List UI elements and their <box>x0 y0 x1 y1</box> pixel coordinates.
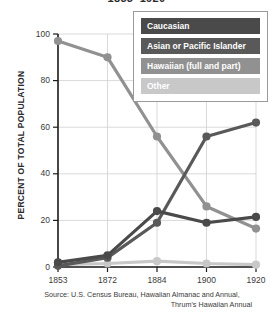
legend-item-1: Asian or Pacific Islander <box>141 38 260 54</box>
y-tick-label: 20 <box>20 215 50 225</box>
population-line-chart: 1853–1920 PERCENT OF TOTAL POPULATION 02… <box>0 0 273 314</box>
y-tick-label: 0 <box>20 262 50 272</box>
x-tick-label: 1920 <box>233 275 273 285</box>
x-tick-label: 1900 <box>184 275 230 285</box>
legend-item-0: Caucasian <box>141 18 260 34</box>
y-tick-label: 80 <box>20 75 50 85</box>
source-line-1: Source: U.S. Census Bureau, Hawaiian Alm… <box>26 290 258 300</box>
x-tick-label: 1884 <box>134 275 180 285</box>
source-line-2: Thrum's Hawaiian Annual <box>26 300 258 310</box>
y-tick-label: 40 <box>20 168 50 178</box>
chart-legend: CaucasianAsian or Pacific IslanderHawaii… <box>133 11 268 102</box>
y-tick-label: 100 <box>20 29 50 39</box>
source-note: Source: U.S. Census Bureau, Hawaiian Alm… <box>26 290 258 309</box>
legend-item-2: Hawaiian (full and part) <box>141 58 260 74</box>
legend-item-3: Other <box>141 78 260 94</box>
x-tick-label: 1872 <box>85 275 131 285</box>
y-tick-label: 60 <box>20 122 50 132</box>
x-tick-label: 1853 <box>35 275 81 285</box>
